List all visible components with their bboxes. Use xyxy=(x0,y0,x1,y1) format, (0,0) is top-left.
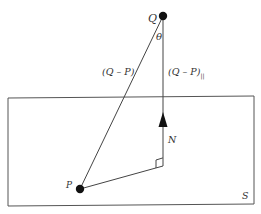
normal-arrow-icon xyxy=(159,112,168,127)
point-p xyxy=(76,185,84,193)
projection-diagram: Q P θ (Q – P) (Q – P)|| N S xyxy=(0,0,261,214)
label-parallel: (Q – P)|| xyxy=(168,66,204,80)
label-parallel-sub: || xyxy=(200,72,204,80)
plane-s xyxy=(8,96,254,206)
label-p: P xyxy=(65,180,73,190)
label-plane-s: S xyxy=(242,190,249,201)
label-normal: N xyxy=(167,134,177,145)
right-angle-marker xyxy=(156,158,163,160)
label-parallel-main: (Q – P) xyxy=(168,66,201,77)
vector-q-minus-p xyxy=(80,16,163,189)
in-plane-line xyxy=(80,166,163,189)
point-q xyxy=(159,12,167,20)
label-theta: θ xyxy=(156,31,162,42)
label-vector: (Q – P) xyxy=(102,66,135,77)
label-q: Q xyxy=(148,12,157,25)
